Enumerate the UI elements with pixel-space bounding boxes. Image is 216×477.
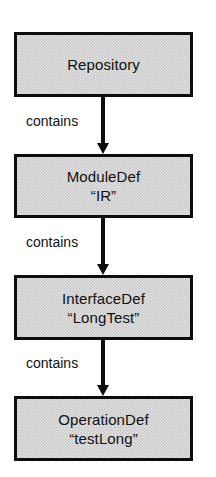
node-moduledef-line2: “IR”	[91, 186, 116, 205]
arrowhead-down-icon	[97, 264, 109, 275]
node-interfacedef: InterfaceDef “LongTest”	[14, 275, 193, 340]
arrowhead-down-icon	[97, 143, 109, 154]
edge-label-contains: contains	[26, 113, 78, 129]
diagram-canvas: Repository contains ModuleDef “IR” conta…	[0, 0, 216, 477]
node-operationdef-line1: OperationDef	[58, 410, 148, 429]
arrowhead-down-icon	[97, 385, 109, 396]
edge-label-contains: contains	[26, 355, 78, 371]
node-interfacedef-line1: InterfaceDef	[62, 289, 145, 308]
edge-label-contains: contains	[26, 234, 78, 250]
node-repository-line1: Repository	[67, 55, 140, 74]
edge-interfacedef-to-operationdef: contains	[0, 340, 216, 396]
node-operationdef-line2: “testLong”	[69, 429, 138, 448]
edge-line-icon	[101, 218, 105, 264]
edge-line-icon	[101, 340, 105, 385]
node-operationdef: OperationDef “testLong”	[14, 396, 193, 461]
node-moduledef: ModuleDef “IR”	[14, 154, 193, 218]
edge-line-icon	[101, 97, 105, 143]
node-moduledef-line1: ModuleDef	[67, 167, 140, 186]
edge-repository-to-moduledef: contains	[0, 97, 216, 154]
node-repository: Repository	[14, 32, 193, 97]
edge-moduledef-to-interfacedef: contains	[0, 218, 216, 275]
node-interfacedef-line2: “LongTest”	[68, 308, 140, 327]
